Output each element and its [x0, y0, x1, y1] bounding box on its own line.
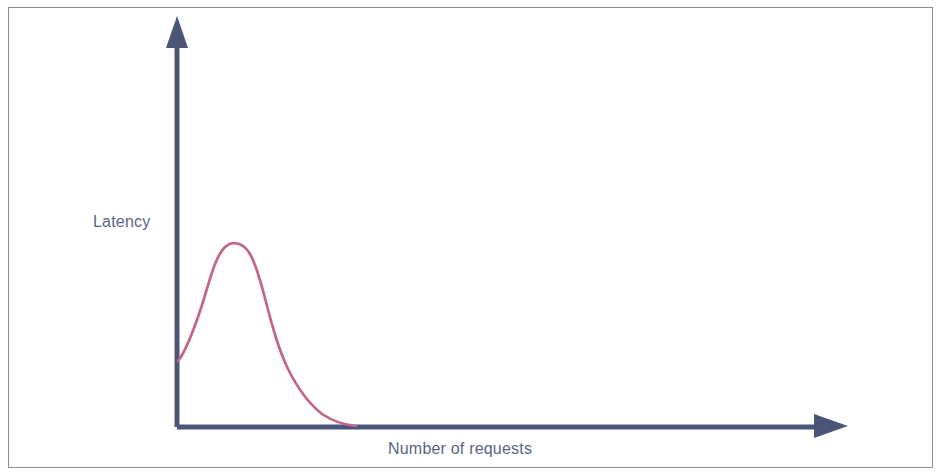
- y-axis-arrowhead-icon: [166, 16, 188, 48]
- y-axis-label: Latency: [93, 213, 150, 231]
- x-axis-arrowhead-icon: [814, 414, 848, 438]
- chart-plot-area: [0, 0, 941, 475]
- x-axis-label: Number of requests: [388, 440, 532, 458]
- latency-curve-series: [178, 243, 356, 426]
- figure-container: Latency Number of requests: [0, 0, 941, 475]
